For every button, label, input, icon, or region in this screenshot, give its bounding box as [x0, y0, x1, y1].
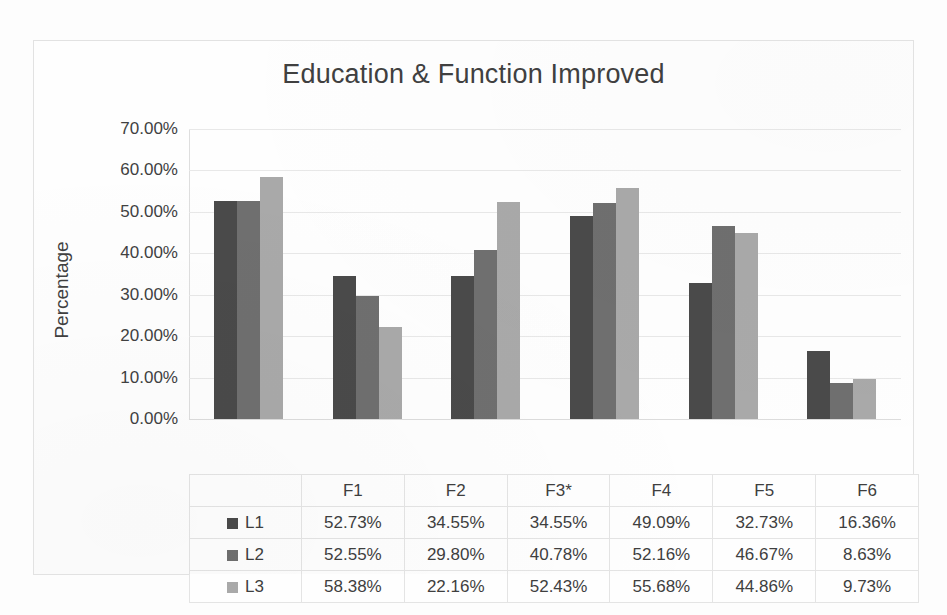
table-cell: 34.55% [404, 507, 507, 539]
table-column-header: F3* [507, 475, 610, 507]
y-axis-tick-label: 30.00% [120, 285, 178, 305]
bar-l3-f1 [260, 177, 283, 419]
series-label: L1 [245, 513, 264, 532]
table-column-header: F5 [713, 475, 816, 507]
data-table: F1F2F3*F4F5F6 L152.73%34.55%34.55%49.09%… [189, 474, 919, 603]
y-axis-tick-label: 20.00% [120, 326, 178, 346]
table-cell: 58.38% [302, 571, 405, 603]
series-legend-cell: L2 [190, 539, 302, 571]
table-column-header: F1 [302, 475, 405, 507]
table-cell: 40.78% [507, 539, 610, 571]
series-label: L2 [245, 545, 264, 564]
series-legend-cell: L3 [190, 571, 302, 603]
table-cell: 52.16% [610, 539, 713, 571]
bar-l1-f2 [333, 276, 356, 419]
table-cell: 52.55% [302, 539, 405, 571]
table-cell: 55.68% [610, 571, 713, 603]
bar-l1-f4 [570, 216, 593, 419]
y-axis-tick-labels: 0.00%10.00%20.00%30.00%40.00%50.00%60.00… [74, 129, 184, 419]
chart-title: Education & Function Improved [34, 59, 913, 90]
y-axis-tick-label: 0.00% [130, 409, 178, 429]
table-cell: 8.63% [816, 539, 919, 571]
data-table-wrapper: F1F2F3*F4F5F6 L152.73%34.55%34.55%49.09%… [189, 474, 919, 603]
table-row: L358.38%22.16%52.43%55.68%44.86%9.73% [190, 571, 919, 603]
bar-l1-f3star [451, 276, 474, 419]
bar-l2-f4 [593, 203, 616, 419]
bar-groups [189, 129, 901, 419]
table-row: L252.55%29.80%40.78%52.16%46.67%8.63% [190, 539, 919, 571]
y-axis-tick-label: 50.00% [120, 202, 178, 222]
bar-group [782, 129, 901, 419]
bar-l2-f1 [237, 201, 260, 419]
table-cell: 9.73% [816, 571, 919, 603]
bar-group [189, 129, 308, 419]
bar-group [545, 129, 664, 419]
table-cell: 22.16% [404, 571, 507, 603]
table-column-header: F6 [816, 475, 919, 507]
table-cell: 16.36% [816, 507, 919, 539]
bar-l3-f5 [735, 233, 758, 419]
y-axis-tick-label: 60.00% [120, 160, 178, 180]
y-axis-tick-label: 40.00% [120, 243, 178, 263]
bar-group [308, 129, 427, 419]
bar-group [664, 129, 783, 419]
y-axis-tick-label: 70.00% [120, 119, 178, 139]
bar-l3-f6 [853, 379, 876, 419]
table-cell: 34.55% [507, 507, 610, 539]
y-axis-title: Percentage [51, 200, 73, 380]
series-legend-cell: L1 [190, 507, 302, 539]
plot-area: Percentage 0.00%10.00%20.00%30.00%40.00%… [34, 129, 915, 474]
table-cell: 44.86% [713, 571, 816, 603]
bar-l3-f2 [379, 327, 402, 419]
legend-swatch-light-icon [227, 582, 238, 593]
chart-container: Education & Function Improved Percentage… [33, 40, 914, 575]
table-corner-cell [190, 475, 302, 507]
legend-swatch-medium-icon [227, 550, 238, 561]
legend-swatch-dark-icon [227, 518, 238, 529]
table-header-row: F1F2F3*F4F5F6 [190, 475, 919, 507]
table-cell: 29.80% [404, 539, 507, 571]
bar-l2-f3star [474, 250, 497, 419]
bar-l3-f4 [616, 188, 639, 419]
y-axis-tick-label: 10.00% [120, 368, 178, 388]
bar-l3-f3star [497, 202, 520, 419]
axis-baseline [189, 419, 901, 420]
table-row: L152.73%34.55%34.55%49.09%32.73%16.36% [190, 507, 919, 539]
table-column-header: F2 [404, 475, 507, 507]
bar-l1-f5 [689, 283, 712, 419]
bar-l2-f2 [356, 296, 379, 419]
table-cell: 46.67% [713, 539, 816, 571]
bar-group [426, 129, 545, 419]
table-cell: 52.43% [507, 571, 610, 603]
table-cell: 32.73% [713, 507, 816, 539]
table-cell: 49.09% [610, 507, 713, 539]
bar-l2-f5 [712, 226, 735, 419]
table-cell: 52.73% [302, 507, 405, 539]
bar-l1-f6 [807, 351, 830, 419]
chart-screenshot: Education & Function Improved Percentage… [0, 0, 947, 615]
table-column-header: F4 [610, 475, 713, 507]
series-label: L3 [245, 577, 264, 596]
bar-l2-f6 [830, 383, 853, 419]
bar-l1-f1 [214, 201, 237, 419]
